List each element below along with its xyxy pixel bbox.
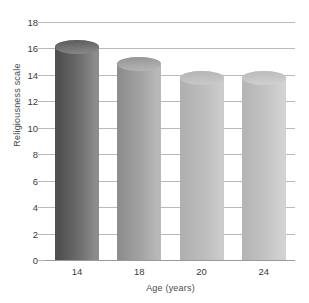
y-axis-tick-label: 16 <box>8 43 38 54</box>
bar-body <box>117 64 161 260</box>
y-axis-tick-label: 12 <box>8 96 38 107</box>
gridline <box>46 22 295 23</box>
x-axis-title-text: Age (years) <box>146 283 195 293</box>
bar[interactable] <box>242 78 286 260</box>
y-axis-tick-mark <box>38 207 46 208</box>
y-axis-tick-mark <box>38 234 46 235</box>
bar[interactable] <box>117 64 161 260</box>
y-axis-tick-label: 4 <box>8 202 38 213</box>
y-axis-tick-label: 6 <box>8 175 38 186</box>
x-axis-tick-label: 20 <box>172 266 232 277</box>
bar[interactable] <box>180 78 224 260</box>
bar-top-highlight <box>180 71 224 85</box>
y-axis-tick-mark <box>38 154 46 155</box>
y-axis-tick-mark <box>38 260 46 261</box>
y-axis-tick-mark <box>38 22 46 23</box>
y-axis-tick-label: 8 <box>8 149 38 160</box>
bar[interactable] <box>55 47 99 260</box>
y-axis-tick-label: 10 <box>8 122 38 133</box>
y-axis-tick-mark <box>38 128 46 129</box>
bar-top-highlight <box>242 71 286 85</box>
y-axis-tick-mark <box>38 75 46 76</box>
x-axis-tick-label: 18 <box>109 266 169 277</box>
y-axis-tick-mark <box>38 48 46 49</box>
y-axis-tick-label: 0 <box>8 255 38 266</box>
y-axis-tick-label: 18 <box>8 17 38 28</box>
chart-container: Religiousness scale 181614121086420 1418… <box>0 0 309 303</box>
x-axis-title: Age (years) <box>0 283 309 293</box>
y-axis-tick-mark <box>38 181 46 182</box>
bar-top-ellipse <box>180 71 224 85</box>
bar-body <box>242 78 286 260</box>
y-axis-tick-label: 2 <box>8 228 38 239</box>
plot-area <box>46 22 295 260</box>
gridline <box>46 260 295 261</box>
y-axis-tick-mark <box>38 101 46 102</box>
x-axis-tick-label: 24 <box>234 266 294 277</box>
bar-body <box>55 47 99 260</box>
y-axis-tick-labels: 181614121086420 <box>6 22 38 260</box>
bar-top-ellipse <box>242 71 286 85</box>
x-axis-tick-label: 14 <box>47 266 107 277</box>
y-axis-tick-label: 14 <box>8 69 38 80</box>
bar-body <box>180 78 224 260</box>
